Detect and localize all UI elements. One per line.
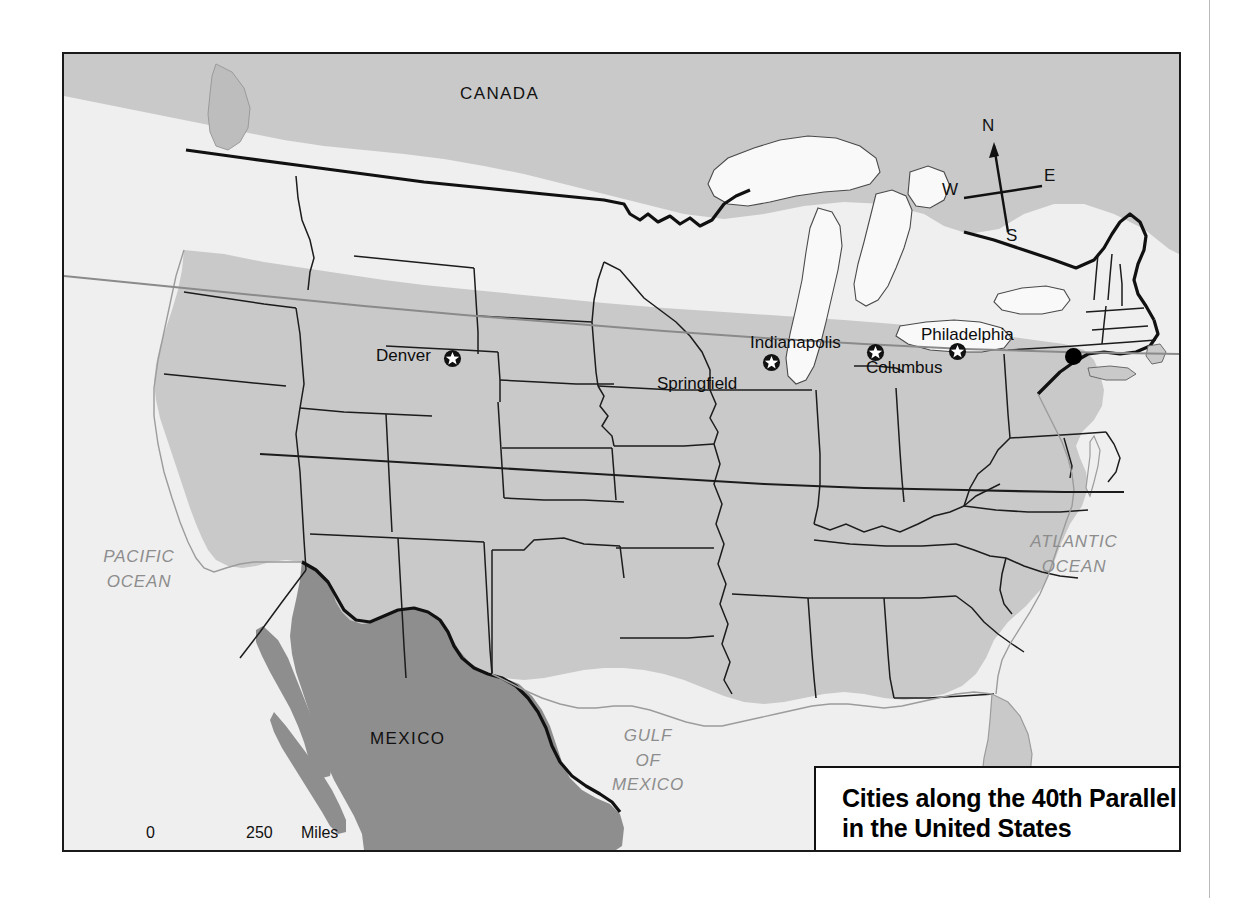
page-margin-rule [1209,0,1210,898]
compass-north-label: N [982,116,994,136]
map-page: CANADA MEXICO PACIFIC OCEAN ATLANTIC OCE… [0,0,1240,898]
map-frame: CANADA MEXICO PACIFIC OCEAN ATLANTIC OCE… [62,52,1181,852]
legend-title-line1: Cities along the 40th Parallel [842,784,1176,812]
compass-south-label: S [1006,226,1017,246]
scale-miles-zero: 0 [146,824,155,842]
legend-title: Cities along the 40th Parallel in the Un… [842,784,1181,843]
scale-miles-value: 250 [246,824,273,842]
legend-title-line2: in the United States [842,814,1181,844]
compass-rose: N E S W [932,114,1074,254]
compass-west-label: W [942,180,958,200]
scale-bar: 0 250 Miles 0 250 Kilometers [146,824,396,852]
scale-bar-graphic [146,850,396,852]
scale-miles-row: 0 250 Miles [146,824,396,848]
map-legend: Cities along the 40th Parallel in the Un… [814,766,1181,852]
compass-east-label: E [1044,166,1055,186]
scale-miles-unit: Miles [301,824,338,842]
